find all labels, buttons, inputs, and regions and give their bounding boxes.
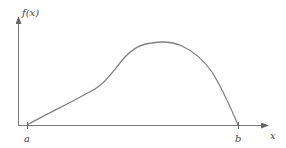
x-axis-label: x [270, 130, 276, 141]
function-diagram: f(x) x a b [0, 0, 286, 148]
y-axis-label: f(x) [21, 7, 39, 18]
function-curve [27, 42, 238, 125]
point-b-label: b [235, 133, 241, 144]
point-a-label: a [24, 133, 30, 144]
